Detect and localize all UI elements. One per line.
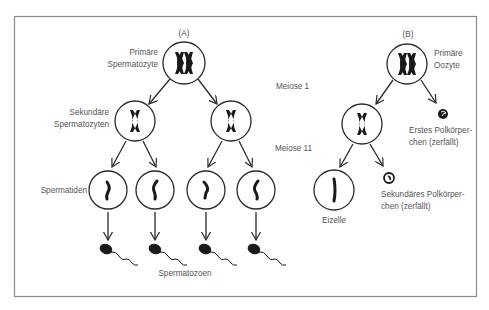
chromatid-icon <box>254 181 258 199</box>
spermatozoa-label: Spermatozoen <box>151 267 220 278</box>
arrow-icon <box>149 79 170 104</box>
chromosome-icon <box>357 113 367 135</box>
arrow-icon <box>239 141 252 167</box>
first-polar-body-icon <box>438 109 448 119</box>
chromosome-pair-icon <box>398 53 416 75</box>
primary-spermatocyte-label-2: Spermatozyte <box>100 58 158 69</box>
chromatid-icon <box>153 181 157 199</box>
sperm-icon <box>99 243 138 266</box>
spermatids-label: Spermatiden <box>38 184 87 195</box>
arrow-icon <box>143 141 156 167</box>
egg-cell-label: Eizelle <box>317 214 351 225</box>
secondary-spermatocyte-label-1: Sekundäre <box>50 106 109 117</box>
sperm-icon <box>247 243 286 266</box>
secondary-spermatocyte-cell-right <box>211 101 251 141</box>
chromatid-icon <box>107 182 110 199</box>
primary-oocyte-label-2: Oozyte <box>434 59 460 70</box>
secondary-spermatocyte-cell-left <box>115 101 155 141</box>
primary-spermatocyte-label-1: Primäre <box>100 46 158 57</box>
arrow-icon <box>112 141 126 167</box>
arrow-icon <box>376 80 393 104</box>
chromosome-icon <box>226 110 236 132</box>
second-polar-body-icon <box>384 173 394 183</box>
figure-frame <box>15 17 477 297</box>
meiosis-diagram: (A) Primäre Spermatozyte Sekundäre Sperm… <box>0 0 489 310</box>
second-polar-body-label-1: Sekundäres Polkörper- <box>381 188 465 199</box>
meiosis-1-label: Meiose 1 <box>276 80 309 91</box>
secondary-spermatocyte-label-2: Spermatozyten <box>50 118 109 129</box>
sperm-icon <box>198 243 237 266</box>
secondary-oocyte-cell <box>342 104 382 144</box>
chromatid-icon <box>204 182 208 198</box>
panel-b-label: (B) <box>399 28 416 39</box>
arrow-icon <box>421 80 436 103</box>
arrow-icon <box>370 144 383 166</box>
panel-a-label: (A) <box>175 27 192 38</box>
chromosome-pair-icon <box>175 52 193 74</box>
arrow-icon <box>208 141 222 167</box>
first-polar-body-label-2: chen (zerfällt) <box>409 136 459 147</box>
meiosis-2-label: Meiose 11 <box>275 142 312 153</box>
diagram-canvas <box>0 0 489 310</box>
chromosome-icon <box>130 110 140 132</box>
primary-oocyte-label-1: Primäre <box>434 47 463 58</box>
arrow-icon <box>198 79 217 104</box>
arrow-icon <box>340 144 353 167</box>
second-polar-body-label-2: chen (zerfällt) <box>381 200 431 211</box>
chromatid-icon <box>334 179 335 201</box>
sperm-icon <box>148 243 187 266</box>
first-polar-body-label-1: Erstes Polkörper- <box>409 124 472 135</box>
